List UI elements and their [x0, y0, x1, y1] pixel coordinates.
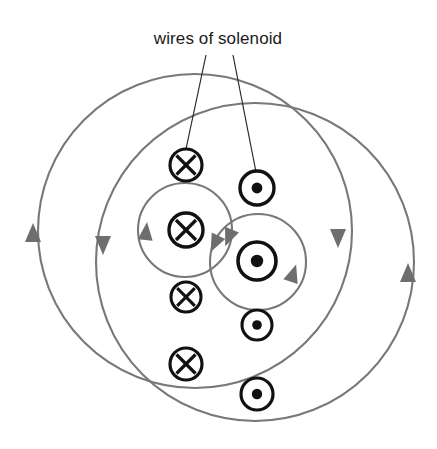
wire-current-into-page-4 — [170, 348, 202, 380]
wire-current-out-of-page-1 — [240, 171, 274, 205]
arrow-inner-left-east — [204, 233, 225, 256]
arrow-inner-left-west — [138, 221, 155, 240]
wire-current-out-of-page-3 — [242, 310, 272, 340]
leader-to-dot-wire — [233, 55, 256, 172]
wire-current-out-of-page-2 — [238, 242, 276, 280]
arrow-inner-right-east — [283, 262, 303, 284]
wire-current-into-page-3 — [171, 282, 201, 312]
arrow-outer-left-east — [330, 229, 346, 248]
current-dot — [252, 183, 263, 194]
current-dot — [252, 389, 262, 399]
current-dot — [251, 255, 263, 267]
field-lines-group — [38, 74, 414, 421]
leader-to-x-wire — [186, 55, 206, 149]
wire-current-out-of-page-4 — [241, 378, 273, 410]
solenoid-field-diagram: wires of solenoid — [0, 0, 437, 449]
wire-current-into-page-1 — [170, 149, 202, 181]
wires-of-solenoid-label: wires of solenoid — [153, 29, 282, 48]
wire-current-into-page-2 — [169, 213, 203, 247]
current-dot — [252, 320, 262, 330]
diagram-canvas: wires of solenoid — [0, 0, 437, 449]
